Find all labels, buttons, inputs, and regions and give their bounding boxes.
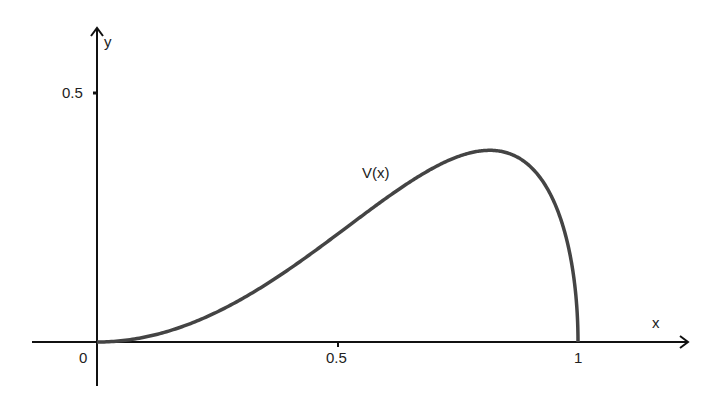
x-axis-label: x xyxy=(652,314,660,331)
x-tick-label-one: 1 xyxy=(574,349,582,366)
curve-label: V(x) xyxy=(362,164,390,181)
y-tick-label-half: 0.5 xyxy=(62,84,83,101)
chart-canvas xyxy=(0,0,708,399)
origin-label: 0 xyxy=(79,349,87,366)
x-tick-label-half: 0.5 xyxy=(326,349,347,366)
curve-v-of-x xyxy=(97,150,578,342)
y-axis-label: y xyxy=(104,33,112,50)
